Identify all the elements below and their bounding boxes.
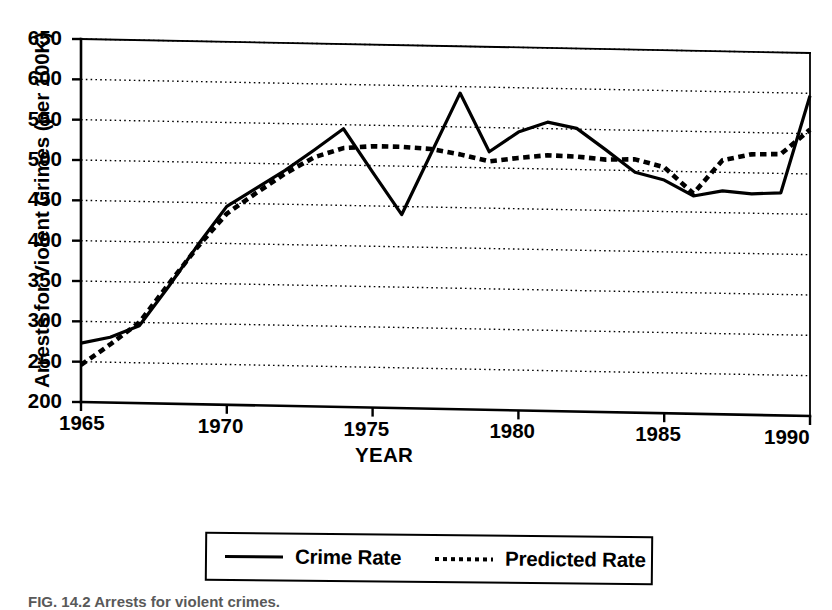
- x-axis-title: YEAR: [355, 443, 413, 467]
- legend-entry-predicted-rate: Predicted Rate: [435, 543, 646, 575]
- x-tick-label-1965: 1965: [59, 413, 105, 434]
- legend-label-crime-rate: Crime Rate: [295, 545, 401, 570]
- x-tick-label-1970: 1970: [198, 416, 244, 437]
- legend-label-predicted-rate: Predicted Rate: [505, 547, 646, 572]
- figure-caption: FIG. 14.2 Arrests for violent crimes.: [28, 593, 280, 610]
- legend-entries: Crime Rate Predicted Rate: [207, 534, 651, 583]
- x-tick-label-1985: 1985: [635, 424, 681, 445]
- x-tick-label-1975: 1975: [344, 419, 390, 440]
- legend-swatch-solid-line-icon: [225, 550, 283, 563]
- chart-legend: Crime Rate Predicted Rate: [205, 532, 653, 585]
- legend-swatch-dotted-line-icon: [435, 552, 493, 565]
- x-tick-label-1980: 1980: [489, 421, 535, 442]
- legend-entry-crime-rate: Crime Rate: [225, 541, 402, 573]
- x-tick-label-1990: 1990: [764, 427, 810, 448]
